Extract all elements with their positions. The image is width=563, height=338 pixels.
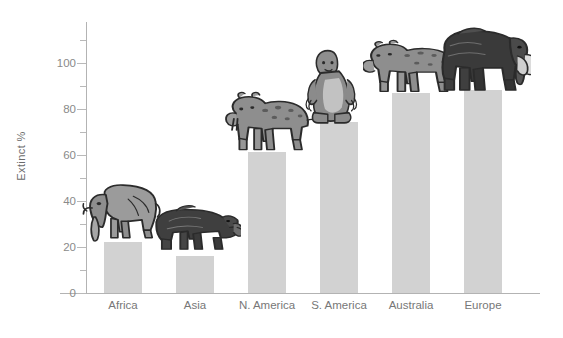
x-axis-label-asia: Asia [184,299,206,311]
x-axis-label-australia: Australia [389,299,434,311]
x-axis-label-europe: Europe [464,299,501,311]
x-axis-category-labels: AfricaAsiaN. AmericaS. AmericaAustraliaE… [0,0,563,338]
x-axis-label-n-america: N. America [239,299,295,311]
x-axis-label-africa: Africa [108,299,137,311]
x-axis-label-s-america: S. America [311,299,367,311]
extinct-percent-bar-chart: Extinct % 020406080100 AfricaAsiaN. Amer… [0,0,563,338]
